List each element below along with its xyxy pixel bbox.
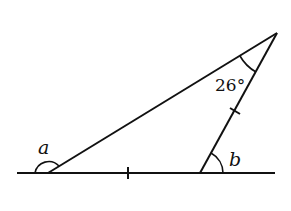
angle-b-label: b bbox=[229, 148, 241, 170]
angle-a-arc bbox=[35, 162, 59, 173]
side-left-apex bbox=[48, 33, 277, 173]
apex-angle-arc bbox=[240, 56, 256, 72]
apex-angle-label: 26° bbox=[215, 75, 245, 95]
triangle-diagram: a b 26° bbox=[0, 0, 291, 211]
diagram-canvas: a b 26° bbox=[0, 0, 291, 211]
angle-b-arc bbox=[211, 153, 223, 173]
angle-a-label: a bbox=[38, 136, 49, 158]
